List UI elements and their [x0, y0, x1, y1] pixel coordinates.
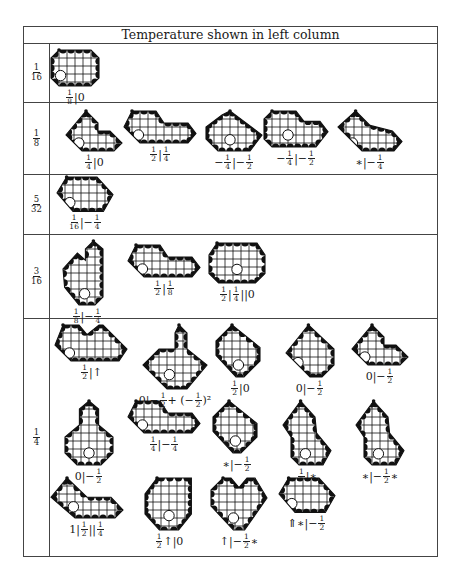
position-value-label: ∗|−12: [222, 456, 251, 473]
board-diagram-icon: [203, 108, 265, 154]
game-position: 12|14||0: [206, 240, 268, 303]
table-row: 1 8 14|0 12|14: [24, 102, 437, 175]
label-fraction: 12: [220, 286, 227, 303]
game-position: 14|0: [63, 108, 125, 171]
table-row: 3 16 18|−14 12|18: [24, 234, 437, 319]
game-position: 116|−14: [54, 174, 116, 231]
label-fraction: 14: [224, 154, 231, 171]
board-diagram-icon: [210, 398, 264, 456]
temperature-cell: 3 16: [24, 234, 50, 318]
board-diagram-icon: [208, 475, 270, 533]
label-text: |0: [239, 383, 250, 395]
label-fraction: 12: [156, 533, 163, 550]
label-text: |: [162, 283, 166, 295]
position-value-label: 12|↑: [80, 364, 102, 381]
label-text: ∗: [391, 471, 398, 483]
game-position: 0|−12: [62, 398, 116, 485]
temperature-cell: 1 4: [24, 318, 50, 557]
label-text: ||: [89, 524, 96, 536]
label-fraction: 14: [377, 154, 384, 171]
label-fraction: 12: [246, 154, 253, 171]
label-text: |0: [93, 157, 104, 169]
label-text: |−: [294, 153, 307, 165]
board-diagram-icon: [60, 238, 114, 308]
position-value-label: ∗|−12∗: [362, 468, 399, 485]
board-diagram-icon: [206, 240, 268, 286]
game-position: 14|−14: [125, 398, 203, 453]
game-position: ∗|−14: [335, 108, 405, 171]
game-position: 1|12||14: [48, 475, 126, 538]
position-value-label: 116|−14: [68, 214, 101, 231]
board-diagram-icon: [280, 398, 334, 468]
position-value-label: −14|−12: [276, 150, 316, 167]
position-value-label: 12|18: [153, 280, 174, 297]
game-position: 0|−12: [283, 322, 337, 397]
label-fraction: 12: [308, 150, 315, 167]
position-value-label: ↑|−12∗: [220, 533, 258, 550]
position-value-label: 0|−12: [296, 380, 325, 397]
label-fraction: 12: [387, 368, 394, 385]
board-diagram-icon: [125, 398, 203, 436]
board-diagram-icon: [353, 398, 407, 468]
temperature-cell: 1 16: [24, 43, 50, 102]
board-diagram-icon: [283, 322, 337, 380]
label-text: ↑|−: [220, 536, 242, 548]
temperature-table: Temperature shown in left column 1 16 18…: [23, 26, 438, 557]
label-fraction: 14: [233, 286, 240, 303]
label-text: |−: [232, 157, 245, 169]
label-fraction: 12: [244, 456, 251, 473]
label-fraction: 12: [150, 146, 157, 163]
position-value-label: 12|0: [230, 380, 250, 397]
label-fraction: 14: [163, 146, 170, 163]
board-diagram-icon: [142, 475, 196, 533]
board-diagram-icon: [276, 475, 338, 515]
label-text: ∗: [251, 536, 258, 548]
table-header: Temperature shown in left column: [24, 27, 437, 44]
label-fraction: 14: [94, 214, 101, 231]
board-diagram-icon: [52, 322, 130, 364]
temperature-fraction: 3 16: [31, 267, 42, 286]
label-text: ↑|0: [163, 536, 183, 548]
label-fraction: 14: [286, 150, 293, 167]
label-fraction: 14: [150, 436, 157, 453]
label-fraction: 14: [85, 154, 92, 171]
label-fraction: 14: [171, 436, 178, 453]
label-fraction: 12: [231, 380, 238, 397]
position-value-label: 1|12||14: [69, 521, 105, 538]
temperature-fraction: 1 4: [33, 428, 40, 447]
board-diagram-icon: [213, 322, 267, 380]
label-text: 1|: [69, 524, 80, 536]
game-position: 12|∗: [280, 398, 334, 485]
game-position: 12|0: [213, 322, 267, 397]
game-position: 0|−12: [349, 322, 411, 385]
table-row: 5 32 116|−14: [24, 174, 437, 235]
board-diagram-icon: [48, 47, 102, 89]
position-value-label: 14|0: [84, 154, 104, 171]
label-text: 0|−: [366, 371, 386, 383]
temperature-fraction: 1 16: [31, 63, 42, 82]
label-text: −: [214, 157, 223, 169]
game-position: 12|14: [121, 108, 199, 163]
board-diagram-icon: [261, 108, 331, 150]
board-diagram-icon: [125, 242, 203, 280]
label-text: ||0: [240, 289, 254, 301]
label-text: ∗|−: [362, 471, 382, 483]
label-text: ∗|−: [355, 157, 375, 169]
board-diagram-icon: [54, 174, 116, 214]
label-fraction: 12: [154, 280, 161, 297]
temperature-fraction: 5 32: [31, 195, 42, 214]
game-position: 0|−12 + (−12)²: [140, 322, 210, 409]
label-text: −: [276, 153, 285, 165]
game-position: 12|↑: [52, 322, 130, 381]
game-position: ⇑∗|−12: [276, 475, 338, 532]
label-fraction: 12: [81, 521, 88, 538]
label-fraction: 12: [318, 515, 325, 532]
board-diagram-icon: [121, 108, 199, 146]
label-text: |−: [80, 217, 93, 229]
game-position: 18|−14: [60, 238, 114, 325]
board-diagram-icon: [349, 322, 411, 368]
position-value-label: ⇑∗|−12: [288, 515, 326, 532]
temperature-cell: 5 32: [24, 174, 50, 234]
game-position: −14|−12: [261, 108, 331, 167]
label-text: ∗|−: [222, 459, 242, 471]
